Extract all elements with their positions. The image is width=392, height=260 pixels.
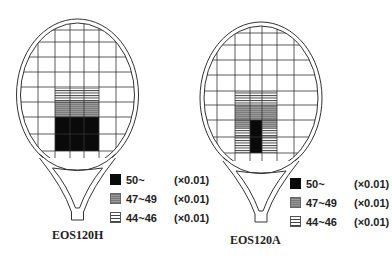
legend-item-44-46: 44~46 (×0.01)	[110, 208, 209, 227]
legend-range: 47~49	[126, 193, 174, 205]
legend-item-50-plus: 50~ (×0.01)	[110, 170, 209, 189]
caption-eos120a: EOS120A	[230, 233, 281, 248]
legend-range: 47~49	[306, 197, 354, 209]
legend-range: 50~	[126, 174, 174, 186]
legend-multiplier: (×0.01)	[354, 216, 389, 228]
region-stripe	[235, 91, 277, 105]
black-swatch-icon	[110, 174, 121, 185]
legend-multiplier: (×0.01)	[354, 197, 389, 209]
legend-range: 50~	[306, 178, 354, 190]
striped-swatch-icon	[290, 216, 301, 227]
legend-range: 44~46	[126, 212, 174, 224]
legend-multiplier: (×0.01)	[354, 178, 389, 190]
caption-eos120h: EOS120H	[52, 228, 103, 243]
string-grid	[200, 22, 322, 174]
region-black	[250, 120, 262, 153]
legend-eos120h: 50~ (×0.01) 47~49 (×0.01) 44~46 (×0.01)	[110, 170, 209, 227]
gray-swatch-icon	[110, 193, 121, 204]
region-gray	[55, 102, 99, 117]
legend-range: 44~46	[306, 216, 354, 228]
legend-multiplier: (×0.01)	[174, 193, 209, 205]
legend-multiplier: (×0.01)	[174, 174, 209, 186]
black-swatch-icon	[290, 178, 301, 189]
legend-item-47-49: 47~49 (×0.01)	[110, 189, 209, 208]
legend-eos120a: 50~ (×0.01) 47~49 (×0.01) 44~46 (×0.01)	[290, 174, 389, 231]
legend-item-50-plus: 50~ (×0.01)	[290, 174, 389, 193]
region-stripe	[55, 88, 99, 102]
gray-swatch-icon	[290, 197, 301, 208]
string-grid	[17, 19, 139, 171]
legend-item-44-46: 44~46 (×0.01)	[290, 212, 389, 231]
legend-item-47-49: 47~49 (×0.01)	[290, 193, 389, 212]
striped-swatch-icon	[110, 212, 121, 223]
legend-multiplier: (×0.01)	[174, 212, 209, 224]
